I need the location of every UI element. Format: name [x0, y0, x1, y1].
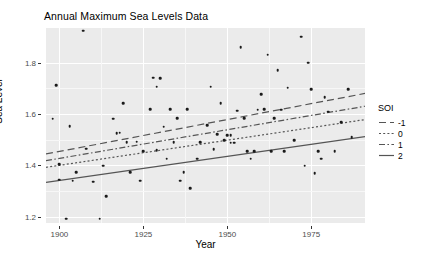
data-point	[246, 150, 249, 153]
data-point	[283, 150, 286, 153]
data-point	[229, 134, 232, 137]
data-point	[307, 61, 310, 64]
x-tick-mark	[227, 226, 228, 229]
data-point	[172, 141, 175, 144]
legend-item-soi-0[interactable]: 0	[378, 128, 425, 139]
data-point	[92, 180, 95, 183]
legend-item-soi-2[interactable]: 2	[378, 150, 425, 161]
data-point	[323, 96, 326, 99]
x-tick-mark	[59, 226, 60, 229]
x-tick-label: 1975	[302, 230, 320, 239]
legend-line-icon	[378, 150, 395, 161]
data-point	[115, 132, 118, 135]
data-point	[68, 125, 71, 128]
data-point	[233, 141, 236, 144]
data-point	[72, 179, 75, 182]
regression-line-soi-1	[46, 106, 365, 160]
data-point	[199, 141, 202, 144]
data-point	[256, 108, 259, 111]
data-point	[149, 108, 152, 111]
legend-line-icon	[378, 139, 395, 150]
x-axis-label: Year	[0, 239, 411, 250]
data-point	[82, 29, 85, 32]
data-point	[129, 171, 132, 174]
data-point	[196, 158, 199, 161]
data-point	[260, 93, 263, 96]
data-point	[51, 117, 54, 120]
y-axis-label-wrap: Sea Level	[0, 0, 40, 258]
data-point	[250, 158, 253, 161]
legend-item-soi-1[interactable]: 1	[378, 139, 425, 150]
data-point	[162, 125, 165, 128]
data-point	[270, 150, 273, 153]
x-tick-mark	[311, 226, 312, 229]
legend-line-icon	[378, 117, 395, 128]
data-point	[320, 158, 323, 161]
data-point	[273, 117, 276, 120]
x-tick-label: 1925	[134, 230, 152, 239]
data-point	[156, 85, 159, 88]
data-point	[142, 150, 145, 153]
y-axis-label: Sea Level	[0, 79, 4, 123]
data-point	[347, 88, 350, 91]
data-point	[216, 133, 219, 136]
page-title: Annual Maximum Sea Levels Data	[44, 10, 208, 22]
data-point	[98, 217, 101, 220]
data-point	[176, 117, 179, 120]
data-point	[276, 69, 279, 72]
legend-item-soi--1[interactable]: -1	[378, 117, 425, 128]
data-point	[229, 141, 232, 144]
data-point	[266, 53, 269, 56]
legend-title: SOI	[378, 103, 425, 113]
data-point	[300, 35, 303, 38]
data-point	[179, 179, 182, 182]
data-point	[169, 108, 172, 111]
data-point	[122, 102, 125, 105]
data-point	[303, 164, 306, 167]
data-point	[243, 117, 246, 120]
plot-panel	[46, 28, 365, 223]
data-point	[152, 76, 155, 79]
data-point	[340, 121, 343, 124]
data-point	[350, 136, 353, 139]
legend-entries: -1012	[378, 117, 425, 161]
data-point	[263, 108, 266, 111]
data-point	[102, 164, 105, 167]
data-point	[85, 147, 88, 150]
data-point	[206, 124, 209, 127]
data-point	[280, 108, 283, 111]
data-point	[293, 139, 296, 142]
data-point	[58, 179, 61, 182]
data-point	[189, 187, 192, 190]
data-point	[112, 117, 115, 120]
data-point	[239, 46, 242, 49]
data-point	[159, 77, 162, 80]
data-point	[182, 171, 185, 174]
x-tick-label: 1900	[51, 230, 69, 239]
data-point	[253, 150, 256, 153]
data-point	[55, 84, 58, 87]
x-tick-label: 1950	[218, 230, 236, 239]
data-point	[223, 139, 226, 142]
legend-item-label: -1	[398, 118, 406, 128]
data-point	[135, 140, 138, 143]
data-point	[327, 111, 330, 114]
data-point	[186, 108, 189, 111]
legend-item-label: 0	[398, 129, 403, 139]
data-point	[333, 150, 336, 153]
data-point	[209, 85, 212, 88]
x-tick-mark	[143, 226, 144, 229]
data-point	[75, 171, 78, 174]
data-point	[65, 217, 68, 220]
data-point	[119, 131, 122, 134]
data-point	[219, 102, 222, 105]
x-axis-ticks: 1900192519501975	[0, 226, 425, 238]
data-point	[139, 179, 142, 182]
data-point	[156, 149, 159, 152]
legend: SOI -1012	[378, 103, 425, 161]
chart-root: Annual Maximum Sea Levels Data 1.21.41.6…	[0, 0, 425, 258]
data-point	[236, 109, 239, 112]
data-point	[166, 158, 169, 161]
legend-line-icon	[378, 128, 395, 139]
data-point	[125, 141, 128, 144]
